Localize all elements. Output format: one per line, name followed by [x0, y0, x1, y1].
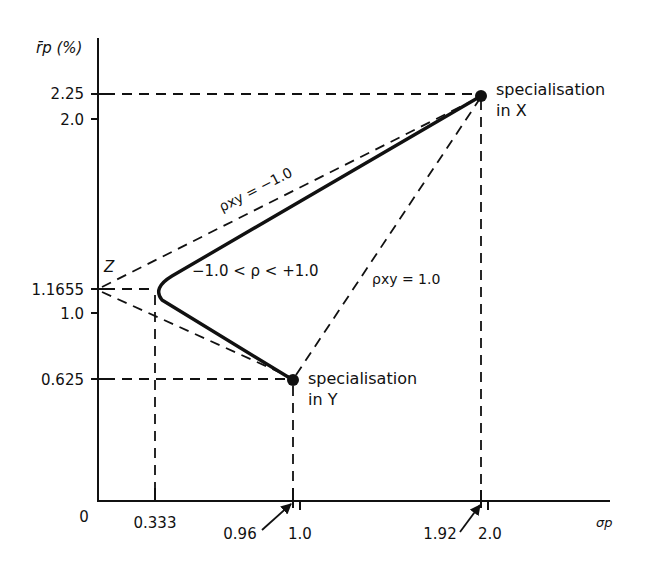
frontier-curve	[159, 96, 481, 380]
label-rho-neg: ρxy = −1.0	[216, 164, 295, 215]
svg-text:1.0: 1.0	[288, 525, 312, 543]
annotations: specialisation in X specialisation in Y …	[103, 80, 605, 409]
y-axis-label: r̄p (%)	[36, 39, 82, 57]
label-z: Z	[103, 258, 115, 276]
guide-lines	[105, 94, 481, 490]
svg-text:1.92: 1.92	[423, 525, 456, 543]
rho-minus-one-line	[102, 98, 478, 377]
arrow-096	[262, 504, 291, 530]
label-spec-x-2: in X	[496, 101, 527, 120]
label-rho-pos: ρxy = 1.0	[372, 271, 440, 287]
label-spec-y-1: specialisation	[308, 369, 417, 388]
svg-text:2.0: 2.0	[478, 525, 502, 543]
label-rho-range: −1.0 < ρ < +1.0	[192, 262, 319, 280]
x-axis-label: σp	[596, 515, 613, 530]
svg-text:1.0: 1.0	[60, 305, 84, 323]
svg-text:1.1655: 1.1655	[32, 281, 85, 299]
svg-text:0.625: 0.625	[41, 371, 84, 389]
point-x	[475, 90, 487, 102]
point-y	[287, 374, 299, 386]
axes	[97, 38, 610, 501]
svg-text:0.96: 0.96	[223, 525, 256, 543]
svg-text:0.333: 0.333	[134, 514, 177, 532]
svg-text:2.0: 2.0	[60, 111, 84, 129]
label-spec-x-1: specialisation	[496, 80, 605, 99]
rho-plus-one-line	[296, 100, 479, 375]
label-spec-y-2: in Y	[308, 390, 338, 409]
svg-text:0: 0	[79, 508, 89, 526]
x-tick-labels: 0 0.333 0.96 1.0 1.92 2.0	[79, 508, 502, 543]
arrow-192	[460, 505, 480, 532]
svg-text:2.25: 2.25	[51, 85, 84, 103]
y-tick-labels: 2.25 2.0 1.1655 1.0 0.625	[32, 85, 85, 389]
x-ticks	[155, 488, 488, 510]
efficient-frontier-chart: 2.25 2.0 1.1655 1.0 0.625 0 0.333 0.96 1…	[0, 0, 648, 570]
